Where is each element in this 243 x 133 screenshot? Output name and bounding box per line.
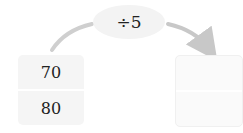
operation-oval: ÷5 [93, 5, 165, 39]
input-cell-bottom: 80 [18, 91, 84, 125]
input-box: 70 80 [18, 55, 84, 125]
output-cell-bottom[interactable] [176, 92, 242, 126]
right-arrow [168, 24, 208, 48]
division-mapping-diagram: ÷5 70 80 [0, 0, 243, 133]
operation-label: ÷5 [116, 12, 141, 32]
output-box [175, 55, 243, 127]
left-arc [52, 24, 92, 50]
input-cell-top: 70 [18, 55, 84, 89]
output-cell-top[interactable] [176, 56, 242, 90]
